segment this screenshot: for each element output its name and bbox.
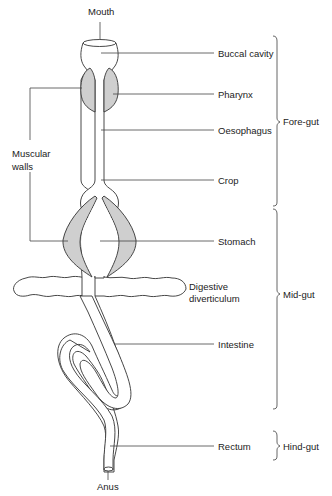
label-mid-gut: Mid-gut	[283, 289, 315, 300]
label-mouth: Mouth	[88, 6, 114, 17]
pharynx-muscle-right	[104, 68, 118, 112]
label-hind-gut: Hind-gut	[283, 441, 319, 452]
digestive-diverticulum-shape	[14, 276, 187, 296]
brace-fore-gut	[273, 36, 280, 206]
label-buccal-cavity: Buccal cavity	[218, 48, 274, 59]
alimentary-canal-diagram: Mouth Buccal cavity Pharynx Oesophagus M…	[0, 0, 332, 496]
leader-muscular-walls-stomach	[30, 172, 68, 241]
label-rectum: Rectum	[218, 441, 251, 452]
mouth-opening	[83, 40, 116, 47]
label-oesophagus: Oesophagus	[218, 125, 272, 136]
label-muscular-walls-2: walls	[11, 161, 33, 172]
anus-opening	[104, 467, 113, 471]
label-pharynx: Pharynx	[218, 89, 253, 100]
label-stomach: Stomach	[218, 236, 256, 247]
label-anus: Anus	[97, 481, 119, 492]
label-muscular-walls-1: Muscular	[12, 148, 51, 159]
label-digestive-2: diverticulum	[189, 293, 240, 304]
label-fore-gut: Fore-gut	[283, 116, 319, 127]
leader-muscular-walls	[30, 88, 82, 140]
label-digestive-1: Digestive	[189, 281, 228, 292]
label-intestine: Intestine	[218, 339, 254, 350]
label-crop: Crop	[218, 175, 239, 186]
brace-mid-gut	[273, 209, 280, 409]
brace-hind-gut	[273, 431, 280, 460]
